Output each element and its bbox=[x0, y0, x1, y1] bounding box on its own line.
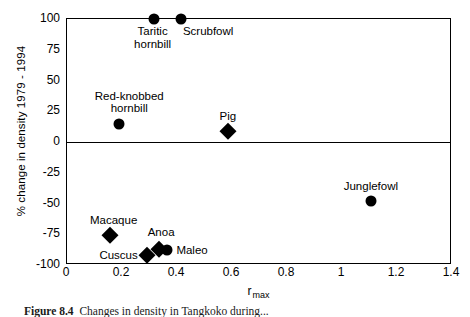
x-tick-label: 0 bbox=[63, 266, 70, 278]
data-point-label: Macaque bbox=[90, 214, 137, 227]
data-point-label-line: Pig bbox=[220, 110, 237, 123]
y-tick-label: -75 bbox=[16, 227, 60, 239]
y-tick-label: 100 bbox=[16, 12, 60, 24]
data-point-label: Junglefowl bbox=[344, 180, 398, 193]
x-axis-tick-labels: 00.20.40.60.811.21.4 bbox=[66, 266, 451, 284]
data-point-label: Scrubfowl bbox=[183, 25, 234, 38]
x-tick-label: 1 bbox=[338, 266, 345, 278]
x-tick-label: 0.6 bbox=[223, 266, 240, 278]
data-point-marker bbox=[162, 245, 173, 256]
x-tick-label: 0.2 bbox=[113, 266, 130, 278]
x-tick-label: 0.4 bbox=[168, 266, 185, 278]
data-point-label-line: Taritic bbox=[134, 25, 171, 38]
zero-reference-line bbox=[67, 142, 450, 143]
data-point-marker bbox=[176, 14, 187, 25]
data-point-label-line: Junglefowl bbox=[344, 180, 398, 193]
x-tick-label: 1.4 bbox=[443, 266, 460, 278]
data-point-label: Taritichornbill bbox=[134, 25, 171, 50]
y-axis-tick-labels: 1007550250-25-50-75-100 bbox=[16, 0, 60, 317]
data-point-label-line: hornbill bbox=[134, 38, 171, 51]
data-point-label: Cuscus bbox=[99, 249, 137, 262]
data-point-label-line: Macaque bbox=[90, 214, 137, 227]
data-point-label: Red-knobbedhornbill bbox=[95, 90, 164, 115]
figure-caption: Figure 8.4 Changes in density in Tangkok… bbox=[24, 305, 454, 317]
y-tick-label: 0 bbox=[16, 135, 60, 147]
data-point-label-line: Scrubfowl bbox=[183, 25, 234, 38]
data-point-label-line: Anoa bbox=[148, 226, 175, 239]
caption-figure-number: Figure 8.4 bbox=[24, 305, 74, 317]
data-point-marker bbox=[114, 118, 125, 129]
caption-text: Changes in density in Tangkoko during... bbox=[79, 305, 268, 317]
y-tick-label: 75 bbox=[16, 43, 60, 55]
data-point-marker bbox=[220, 123, 236, 139]
data-point-label-line: Maleo bbox=[176, 244, 207, 257]
x-axis-label-base: r bbox=[247, 284, 251, 298]
plot-area: TaritichornbillScrubfowlRed-knobbedhornb… bbox=[66, 18, 451, 264]
y-tick-label: 50 bbox=[16, 74, 60, 86]
figure-scatter-plot: % change in density 1979 - 1994 10075502… bbox=[0, 0, 470, 317]
x-tick-label: 0.8 bbox=[278, 266, 295, 278]
x-axis-label: rmax bbox=[66, 284, 451, 300]
data-point-marker bbox=[101, 227, 117, 243]
data-point-marker bbox=[365, 196, 376, 207]
data-point-label-line: Red-knobbed bbox=[95, 90, 164, 103]
data-point-label: Pig bbox=[220, 110, 237, 123]
data-point-label-line: Cuscus bbox=[99, 249, 137, 262]
x-axis-label-subscript: max bbox=[252, 290, 269, 300]
y-tick-label: 25 bbox=[16, 104, 60, 116]
data-point-label-line: hornbill bbox=[95, 102, 164, 115]
y-tick-label: -50 bbox=[16, 197, 60, 209]
y-tick-label: -100 bbox=[16, 258, 60, 270]
x-tick-label: 1.2 bbox=[388, 266, 405, 278]
data-point-label: Anoa bbox=[148, 226, 175, 239]
data-point-label: Maleo bbox=[176, 244, 207, 257]
y-tick-label: -25 bbox=[16, 166, 60, 178]
data-point-marker bbox=[148, 14, 159, 25]
